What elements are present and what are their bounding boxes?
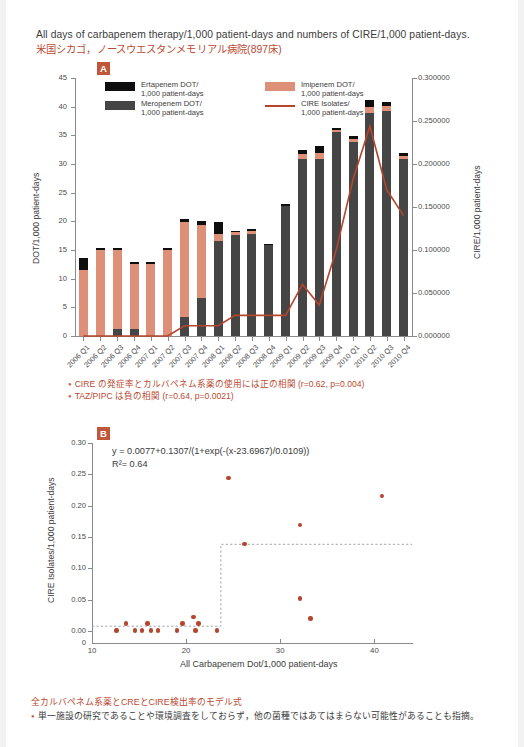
chart-a-y2tick [413, 293, 417, 294]
bar-segment-ertapenem [365, 100, 374, 107]
chart-a-xtick [134, 337, 135, 341]
scatter-point [191, 615, 195, 619]
bar-2006-q3 [113, 248, 122, 336]
bar-2009-q2 [298, 150, 307, 336]
chart-b-ytick-label: 0.10 [60, 564, 86, 572]
chart-a-y2tick-label: 0.250000 [418, 117, 466, 125]
chart-a-xtick [336, 337, 337, 341]
chart-a-ytick-label: 25 [41, 189, 67, 197]
chart-b-xtick [374, 639, 375, 643]
bar-2006-q4 [130, 262, 139, 336]
chart-a-ytick-label: 30 [41, 160, 67, 168]
chart-b-ytick [88, 600, 92, 601]
chart-a-ytick-label: 40 [41, 103, 67, 111]
chart-a-ytick [71, 164, 75, 165]
chart-a-y-axis-title: DOT/1,000 patient-days [31, 173, 41, 264]
chart-b-xtick-label: 10 [79, 647, 105, 655]
legend-swatch-1 [265, 82, 295, 91]
legend-label-0-line2: 1,000 patient-days [141, 89, 203, 98]
chart-a-xtick [404, 337, 405, 341]
chart-b-ytick [88, 537, 92, 538]
scatter-point [114, 628, 118, 632]
chart-a-ytick [71, 336, 75, 337]
bar-2006-q1 [79, 258, 88, 337]
chart-a-ytick [71, 307, 75, 308]
bar-segment-meropenem [298, 159, 307, 336]
chart-a-xtick [151, 337, 152, 341]
bar-segment-ertapenem [231, 231, 240, 233]
bar-segment-meropenem [130, 329, 139, 337]
scatter-point [124, 621, 128, 625]
chart-a-xtick [117, 337, 118, 341]
legend-label-0: Ertapenem DOT/ [141, 80, 198, 89]
bar-segment-imipenem [315, 153, 324, 159]
chart-a-y2tick [413, 78, 417, 79]
chart-b-model-equation: y = 0.0077+0.1307/(1+exp(-(x-23.6967)/0.… [112, 445, 309, 458]
bar-segment-ertapenem [214, 222, 223, 234]
chart-a-xtick [83, 337, 84, 341]
chart-a-xtick [218, 337, 219, 341]
bar-2008-q3 [247, 229, 256, 336]
bar-segment-imipenem [130, 264, 139, 328]
chart-a-y2tick [413, 164, 417, 165]
bar-segment-ertapenem [247, 229, 256, 231]
chart-a-ytick-label: 10 [41, 275, 67, 283]
chart-a-xtick [185, 337, 186, 341]
bar-segment-ertapenem [264, 244, 273, 245]
chart-a-xtick [370, 337, 371, 341]
chart-b-ytick [88, 631, 92, 632]
chart-a-xtick [387, 337, 388, 341]
chart-a-left-axis [75, 78, 76, 336]
bar-segment-imipenem [214, 234, 223, 241]
legend-label-3-line2: 1,000 patient-days [301, 108, 363, 117]
chart-a-ytick [71, 193, 75, 194]
chart-a-y2tick-label: 0.100000 [418, 246, 466, 254]
chart-a-y2tick-label: 0.300000 [418, 74, 466, 82]
chart-a-ytick [71, 221, 75, 222]
chart-b-xtick-label: 30 [267, 647, 293, 655]
chart-a-ytick-label: 35 [41, 131, 67, 139]
bar-segment-meropenem [197, 298, 206, 336]
bar-segment-imipenem [163, 250, 172, 336]
scatter-point [140, 628, 144, 632]
scatter-point [145, 621, 149, 625]
scatter-point [193, 628, 197, 632]
bar-segment-imipenem [79, 270, 88, 336]
chart-a-ytick [71, 135, 75, 136]
scatter-point [308, 616, 312, 620]
chart-a-ytick [71, 78, 75, 79]
bar-2009-q4 [332, 128, 341, 336]
bar-segment-meropenem [113, 329, 122, 336]
bar-2007-q2 [163, 248, 172, 336]
page-root: All days of carbapenem therapy/1,000 pat… [0, 0, 524, 747]
bar-segment-meropenem [399, 159, 408, 336]
chart-a-xtick [201, 337, 202, 341]
scatter-point [226, 476, 230, 480]
scatter-point [156, 628, 160, 632]
bar-segment-meropenem [315, 159, 324, 336]
chart-b-ytick-label-origin: 0 [60, 639, 86, 647]
bar-segment-ertapenem [382, 102, 391, 107]
chart-b-xtick-label: 40 [361, 647, 387, 655]
chart-a-xtick [252, 337, 253, 341]
scatter-point [242, 542, 246, 546]
bar-segment-imipenem [349, 139, 358, 141]
scatter-point [149, 628, 153, 632]
bar-segment-imipenem [332, 130, 341, 133]
bar-segment-ertapenem [332, 128, 341, 130]
chart-b-x-axis-title: All Carbapenem Dot/1,000 patient-days [180, 659, 338, 669]
scatter-point [215, 628, 219, 632]
bar-segment-imipenem [231, 232, 240, 235]
chart-b-ytick [88, 443, 92, 444]
page-title: All days of carbapenem therapy/1,000 pat… [36, 27, 506, 42]
bar-segment-ertapenem [146, 262, 155, 264]
chart-b-xtick [186, 639, 187, 643]
chart-b-xtick [92, 639, 93, 643]
scatter-point [298, 523, 302, 527]
bar-segment-meropenem [382, 111, 391, 336]
scatter-point [298, 596, 302, 600]
scatter-point [133, 628, 137, 632]
bar-2010-q4 [399, 153, 408, 337]
bar-segment-imipenem [247, 231, 256, 234]
bar-segment-meropenem [264, 245, 273, 336]
